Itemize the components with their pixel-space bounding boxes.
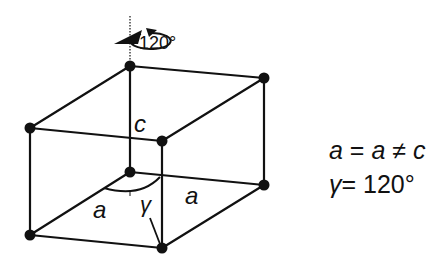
eq-c: c: [413, 136, 426, 164]
gamma-leader-line: [150, 218, 160, 244]
condition-gamma-angle: γ= 120°: [329, 170, 415, 199]
a-axis-label-right: a: [185, 182, 198, 209]
rotation-symbol-icon: [114, 30, 142, 44]
a-axis-label-left: a: [93, 196, 106, 223]
cell-edges: [30, 66, 264, 248]
gamma-label: γ: [140, 192, 153, 217]
eq-not-equal: ≠: [385, 136, 413, 164]
c-axis-label: c: [134, 110, 146, 137]
eq-equals: =: [343, 136, 372, 164]
eq-equals-2: =: [342, 170, 364, 198]
cell-vertices: [25, 61, 270, 254]
eq-gamma-value: 120°: [363, 170, 415, 198]
condition-lattice-lengths: a = a ≠ c: [329, 136, 425, 165]
eq-gamma: γ: [329, 170, 342, 198]
eq-a2: a: [371, 136, 385, 164]
eq-a1: a: [329, 136, 343, 164]
rotation-angle-label: 120°: [139, 33, 176, 53]
